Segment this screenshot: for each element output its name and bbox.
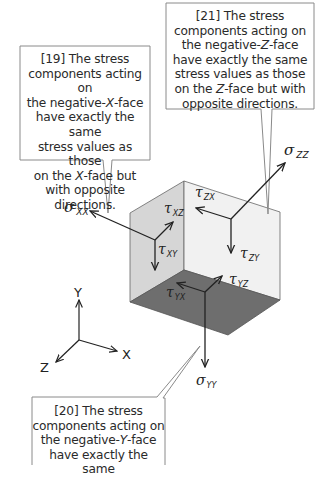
callout-line: [20] The stress — [32, 404, 165, 419]
callout-line: [19] The stress — [20, 52, 150, 67]
callout-line: components acting on — [166, 24, 314, 39]
callout-text-segment: -face — [269, 38, 298, 52]
callout-line: have exactly the same — [32, 448, 165, 477]
callout-text-segment: on the — [34, 169, 76, 183]
callout-20: [20] The stresscomponents acting onthe n… — [32, 404, 165, 477]
coordinate-axes — [56, 300, 117, 362]
callout-line: components acting on — [20, 67, 150, 96]
callout-line: components acting on — [32, 419, 165, 434]
callout-text-segment: stress values as those — [38, 140, 132, 169]
callout-axis-letter: X — [75, 169, 83, 183]
callout-line: [21] The stress — [166, 9, 314, 24]
callout-text-segment: [20] The stress — [54, 404, 143, 418]
callout-text-segment: -face — [127, 433, 156, 447]
callout-line: the negative-X-face — [20, 96, 150, 111]
callout-line: have exactly the same — [20, 110, 150, 139]
callout-text-segment: components acting on — [28, 67, 142, 96]
callout-text-segment: [19] The stress — [41, 52, 130, 66]
callout-text-segment: components acting on — [32, 419, 164, 433]
callout-line: the negative-Y-face — [32, 433, 165, 448]
callout-text-segment: the negative- — [41, 433, 120, 447]
z-axis-arrow — [56, 340, 79, 362]
callout-19: [19] The stresscomponents acting onthe n… — [20, 52, 150, 213]
z-axis-label: Z — [40, 360, 49, 375]
callout-text-segment: opposite directions. — [182, 97, 298, 111]
callout-text-segment: have exactly the same — [173, 53, 308, 67]
callout-axis-letter: X — [106, 96, 114, 110]
callout-text-segment: directions. — [54, 198, 115, 212]
tau-zx-label: τZX — [195, 184, 215, 202]
y-axis-label: Y — [73, 285, 82, 300]
callout-line: on the X-face but — [20, 169, 150, 184]
callout-line: the negative-Z-face — [166, 38, 314, 53]
callout-text-segment: the negative- — [27, 96, 106, 110]
callout-line: stress values as those — [20, 140, 150, 169]
callout-text-segment: stress values as those — [175, 67, 306, 81]
callout-text-segment: with opposite — [45, 183, 125, 197]
callout-line: opposite directions. — [166, 97, 314, 112]
callout-line: have exactly the same — [166, 53, 314, 68]
callout-axis-letter: Z — [216, 82, 224, 96]
callout-line: with opposite — [20, 183, 150, 198]
x-axis-label: X — [122, 347, 131, 362]
callout-text-segment: have exactly the same — [36, 110, 135, 139]
sigma-yy-label: σYY — [196, 372, 217, 390]
callout-line: on the Z-face but with — [166, 82, 314, 97]
callout-text-segment: [21] The stress — [196, 9, 285, 23]
callout-text-segment: -face — [114, 96, 143, 110]
callout-line: directions. — [20, 198, 150, 213]
callout-21: [21] The stresscomponents acting onthe n… — [166, 9, 314, 111]
callout-text-segment: have exactly the same — [49, 448, 148, 477]
callout-text-segment: the negative- — [182, 38, 261, 52]
callout-line: stress values as those — [166, 67, 314, 82]
sigma-zz-label: σZZ — [284, 141, 309, 160]
callout-axis-letter: Z — [261, 38, 269, 52]
callout-text-segment: -face but with — [224, 82, 305, 96]
callout-text-segment: -face but — [84, 169, 137, 183]
callout-text-segment: components acting on — [174, 24, 306, 38]
x-axis-arrow — [79, 340, 117, 351]
callout-text-segment: on the — [174, 82, 216, 96]
callout-axis-letter: Y — [120, 433, 127, 447]
